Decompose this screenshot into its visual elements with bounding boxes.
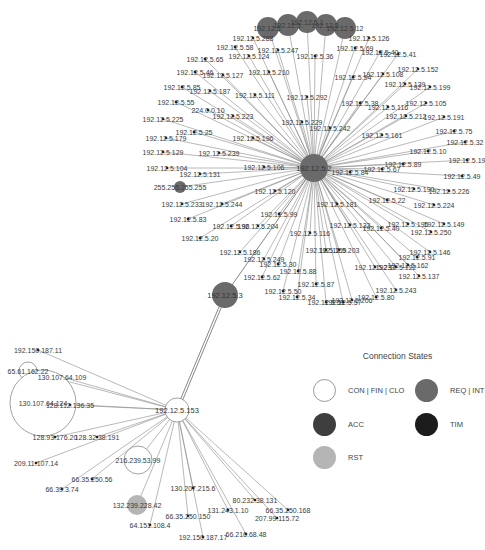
node-label: 192.12.5.199 xyxy=(410,84,451,91)
node-label: 128.112.136.35 xyxy=(46,402,94,409)
node-label: 192.12.5.250 xyxy=(411,229,452,236)
node-label: 192.12.5.57 xyxy=(325,299,362,306)
node-label: 192.12.5.108 xyxy=(363,71,404,78)
edge xyxy=(314,56,315,168)
edge xyxy=(314,48,355,168)
legend-item-acc: ACC xyxy=(313,413,364,436)
node-label: 192.12.5.83 xyxy=(170,216,207,223)
node-label: 192.12.5.88 xyxy=(280,268,317,275)
node-label: 192.12.5.149 xyxy=(424,221,465,228)
node-label: 192.12.5.116 xyxy=(290,230,330,237)
node-label: 192.12.5.191 xyxy=(424,114,465,121)
legend-label: ACC xyxy=(348,420,364,429)
node-label: 192.12.5.242 xyxy=(310,125,351,132)
node-label: 192.12.5.204 xyxy=(238,223,279,230)
legend-swatch-rst xyxy=(313,446,336,469)
node-label: 192.12.5.22 xyxy=(369,197,406,204)
node-label: 192.12.5.161 xyxy=(362,132,403,139)
legend-item-req-int: REQ | INT xyxy=(415,379,484,402)
node-label: 192.12.5.239 xyxy=(199,150,240,157)
node-label: 192.12.5.225 xyxy=(143,116,184,123)
edge xyxy=(176,295,224,410)
node-label: 192.12.5.3 xyxy=(207,291,242,300)
node-label: 192.12.5.105 xyxy=(406,100,447,107)
node-label: 192.12.5.30 xyxy=(260,261,297,268)
legend-swatch-req-int xyxy=(415,379,438,402)
node-label: 192.12.5.36 xyxy=(297,53,334,60)
node-label: 192.12.5.153 xyxy=(155,406,199,415)
node-label: 192.12.5.2 xyxy=(296,164,331,173)
edge xyxy=(255,95,314,168)
node-label: 192.12.5.62 xyxy=(244,274,281,281)
node-label: 192.12.5.243 xyxy=(376,287,417,294)
legend-swatch-con-fin-clo xyxy=(313,379,336,402)
node-label: 192.12.5.41 xyxy=(380,51,417,58)
node-label: 192.12.5.244 xyxy=(202,201,243,208)
node-label: 192.12.5.106 xyxy=(244,164,285,171)
legend-label: CON | FIN | CLO xyxy=(348,386,404,395)
legend-item-tim: TIM xyxy=(415,413,463,436)
legend-title: Connection States xyxy=(310,351,485,361)
node-label: 216.239.53.99 xyxy=(116,457,161,464)
node-label: 80.232.38.131 xyxy=(233,497,278,504)
node-label: 192.12.5.10 xyxy=(410,148,447,155)
node-label: 192.12.5.203 xyxy=(319,247,360,254)
node-label: 192.12.5.223 xyxy=(213,113,254,120)
legend: Connection States CON | FIN | CLO REQ | … xyxy=(310,340,485,480)
node-label: 66.35.250.168 xyxy=(266,507,311,514)
node-label: 192.12.5.196 xyxy=(233,135,274,142)
node-label: 192.12.5.224 xyxy=(414,202,455,209)
node-label: 192.12.5.58 xyxy=(217,44,254,51)
node-label: 192.12.5.186 xyxy=(220,249,261,256)
node-label: 192.12.5.129 xyxy=(143,149,184,156)
node-label: 66.35.250.150 xyxy=(166,513,211,520)
node-label: 192.12.5.131 xyxy=(180,171,221,178)
node-label: 192.12.5.126 xyxy=(349,35,390,42)
node-label: 255.255.255.255 xyxy=(154,184,207,191)
node-label: 64.151.108.4 xyxy=(130,522,171,529)
edge xyxy=(235,47,314,168)
node-label: 192.12.5.226 xyxy=(429,188,470,195)
node-label: 192.12.5.179 xyxy=(146,135,187,142)
legend-label: REQ | INT xyxy=(450,386,484,395)
node-label: 192.12.5.99 xyxy=(261,211,298,218)
node-label: 192.12.5.75 xyxy=(436,128,473,135)
node-label: 192.12.5.137 xyxy=(399,273,440,280)
node-label: 192.12.5.12 xyxy=(327,25,364,32)
node-label: 192.12.5.292 xyxy=(287,94,328,101)
node-label: 192.12.5.19 xyxy=(449,157,485,164)
edge xyxy=(177,410,188,516)
legend-swatch-acc xyxy=(313,413,336,436)
edge xyxy=(179,295,227,410)
node-label: 192.12.5.111 xyxy=(235,92,275,99)
legend-label: RST xyxy=(348,453,363,462)
legend-item-con-fin-clo: CON | FIN | CLO xyxy=(313,379,404,402)
node-label: 192.12.5.212 xyxy=(386,113,427,120)
node-label: 130.107.64.109 xyxy=(38,374,87,381)
node-label: 192.12.5.84 xyxy=(332,169,369,176)
node-label: 66.216.68.48 xyxy=(226,531,267,538)
node-label: 132.239.228.42 xyxy=(113,502,162,509)
node-label: 192.12.5.187 xyxy=(190,88,231,95)
node-label: 192.12.5.116 xyxy=(368,104,408,111)
edge xyxy=(166,138,314,168)
edge xyxy=(314,168,430,252)
node-label: 192.12.5.210 xyxy=(249,69,290,76)
node-label: 209.11.107.14 xyxy=(14,460,58,467)
node-label: 192.12.5.233 xyxy=(162,201,203,208)
node-label: 192.12.5.65 xyxy=(187,56,224,63)
node-label: 192.12.5.32 xyxy=(447,139,484,146)
node-label: 192.12.5.87 xyxy=(298,281,335,288)
edge xyxy=(314,168,417,257)
node-label: 192.12.5.181 xyxy=(317,201,358,208)
node-label: 130.207.215.6 xyxy=(171,485,216,492)
legend-swatch-tim xyxy=(415,413,438,436)
node-label: 192.150.187.11 xyxy=(14,347,62,354)
node-label: 66.39.3.74 xyxy=(45,486,78,493)
node-label: 192.12.5.120 xyxy=(255,188,296,195)
node-label: 192.12.5.124 xyxy=(229,53,270,60)
node-label: 131.243.1.10 xyxy=(208,507,249,514)
node-label: 192.12.5.91 xyxy=(399,254,436,261)
node-label: 192.12.5.127 xyxy=(203,72,244,79)
node-label: 192.150.187.17 xyxy=(179,534,228,541)
